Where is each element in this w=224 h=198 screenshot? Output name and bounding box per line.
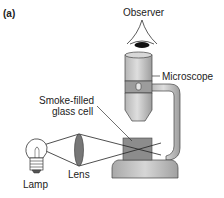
panel-label: (a) — [3, 8, 15, 19]
observer-eye-icon — [127, 20, 157, 48]
lens-icon — [75, 134, 84, 166]
lamp-label: Lamp — [23, 179, 48, 190]
cell-label-line2: glass cell — [52, 106, 93, 117]
apparatus-diagram: (a) Observer Microscope Smoke-filled gla… — [0, 0, 224, 198]
microscope-arm — [150, 84, 180, 160]
observer-label: Observer — [123, 7, 164, 18]
microscope-base — [112, 160, 178, 178]
lens-label: Lens — [68, 169, 90, 180]
microscope-tube — [125, 52, 152, 121]
cell-label-line1: Smoke-filled — [39, 95, 94, 106]
lamp-bulb-icon — [26, 139, 47, 173]
diagram-graphics — [0, 0, 224, 198]
microscope-label: Microscope — [162, 71, 213, 82]
